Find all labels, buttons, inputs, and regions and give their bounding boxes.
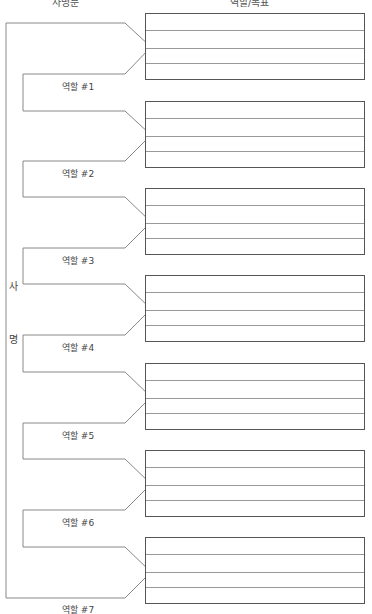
writing-line [146, 398, 364, 399]
role-goal-box-5[interactable] [145, 363, 365, 430]
role-label-3: 역할 #3 [62, 254, 94, 267]
role-goal-box-1[interactable] [145, 13, 365, 80]
role-label-2: 역할 #2 [62, 167, 94, 180]
writing-line [146, 500, 364, 501]
writing-line [146, 238, 364, 239]
writing-line [146, 223, 364, 224]
writing-line [146, 205, 364, 206]
role-label-5: 역할 #5 [62, 429, 94, 442]
writing-line [146, 30, 364, 31]
mission-char-2: 명 [9, 331, 18, 346]
writing-line [146, 136, 364, 137]
writing-line [146, 48, 364, 49]
writing-line [146, 485, 364, 486]
role-goal-box-2[interactable] [145, 101, 365, 168]
writing-line [146, 572, 364, 573]
writing-line [146, 554, 364, 555]
role-label-1: 역할 #1 [62, 80, 94, 93]
writing-line [146, 63, 364, 64]
writing-line [146, 413, 364, 414]
writing-line [146, 118, 364, 119]
role-goal-box-7[interactable] [145, 537, 365, 604]
writing-line [146, 325, 364, 326]
writing-line [146, 467, 364, 468]
role-label-4: 역할 #4 [62, 341, 94, 354]
role-goal-box-3[interactable] [145, 188, 365, 255]
role-label-6: 역할 #6 [62, 516, 94, 529]
mission-char-1: 사 [9, 278, 18, 293]
role-goal-box-4[interactable] [145, 275, 365, 342]
role-label-7: 역할 #7 [62, 603, 94, 614]
writing-line [146, 587, 364, 588]
role-goal-box-6[interactable] [145, 450, 365, 517]
writing-line [146, 151, 364, 152]
writing-line [146, 380, 364, 381]
writing-line [146, 292, 364, 293]
writing-line [146, 310, 364, 311]
